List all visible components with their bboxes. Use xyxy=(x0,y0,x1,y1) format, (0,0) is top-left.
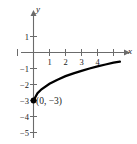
point-annotation-label: (0, −3) xyxy=(36,97,62,107)
y-tick-label-neg3: −3 xyxy=(16,96,29,105)
y-tick-label-neg2: −2 xyxy=(16,80,29,89)
y-tick-label-neg5: −5 xyxy=(16,128,29,137)
x-tick-label-4: 4 xyxy=(95,58,99,67)
x-tick-label-2: 2 xyxy=(63,58,67,67)
y-tick-label-neg1: −1 xyxy=(16,64,29,73)
x-axis-label: x xyxy=(128,47,132,56)
y-axis xyxy=(31,10,37,138)
x-tick-label-1: 1 xyxy=(47,58,51,67)
function-curve xyxy=(34,62,120,101)
graph-figure: y x 1 2 3 4 1 −1 −2 −3 −4 −5 (0, −3) xyxy=(0,0,137,144)
y-tick-label-1: 1 xyxy=(21,32,29,41)
y-tick-label-neg4: −4 xyxy=(16,112,29,121)
y-axis-label: y xyxy=(36,5,40,14)
x-tick-label-3: 3 xyxy=(79,58,83,67)
